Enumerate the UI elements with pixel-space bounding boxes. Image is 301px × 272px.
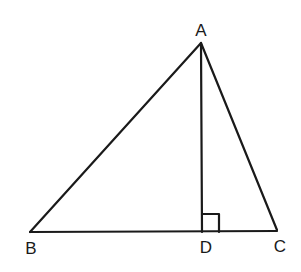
side-bc (30, 231, 277, 232)
vertex-label-b: B (25, 239, 36, 258)
side-ac (201, 43, 277, 230)
vertex-label-a: A (195, 21, 207, 40)
vertex-label-c: C (274, 237, 286, 256)
right-angle-marker (202, 214, 219, 232)
vertex-label-d: D (200, 238, 212, 257)
side-ab (30, 43, 201, 232)
altitude-ad (201, 43, 202, 232)
triangle-diagram: A B D C (0, 0, 301, 272)
